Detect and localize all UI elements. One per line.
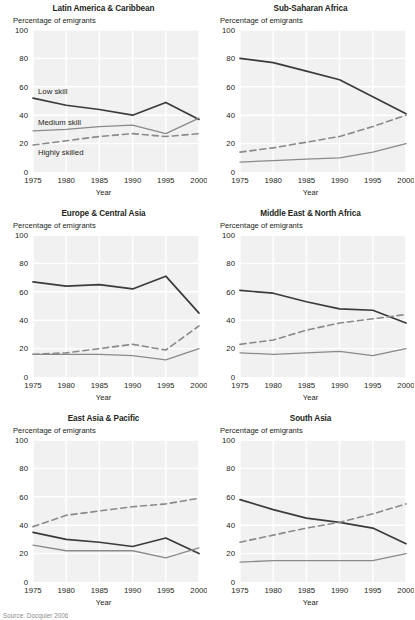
x-axis-label: Year xyxy=(207,188,414,197)
x-tick-label: 1985 xyxy=(91,381,109,390)
x-tick-label: 1995 xyxy=(364,381,382,390)
y-tick-label: 100 xyxy=(15,26,29,35)
panel-middle-east-north-africa: Middle East & North Africa Percentage of… xyxy=(207,205,414,410)
plot-area: 020406080100197519801985199019952000 xyxy=(207,410,414,615)
y-tick-label: 60 xyxy=(226,83,235,92)
y-tick-label: 40 xyxy=(19,111,28,120)
y-tick-label: 80 xyxy=(19,259,28,268)
x-tick-label: 1990 xyxy=(331,176,349,185)
plot-area: 020406080100197519801985199019952000 xyxy=(207,0,414,205)
panel-sub-saharan-africa: Sub-Saharan Africa Percentage of emigran… xyxy=(207,0,414,205)
plot-area: 020406080100197519801985199019952000Low … xyxy=(0,0,207,205)
x-tick-label: 1975 xyxy=(231,381,249,390)
x-tick-label: 1990 xyxy=(124,176,142,185)
x-axis-label: Year xyxy=(207,598,414,607)
plot-background xyxy=(33,440,199,582)
y-tick-label: 20 xyxy=(226,549,235,558)
plot-background xyxy=(33,235,199,377)
y-tick-label: 100 xyxy=(15,436,29,445)
y-tick-label: 80 xyxy=(19,54,28,63)
series-annotation: Highly skilled xyxy=(38,148,84,157)
y-tick-label: 100 xyxy=(222,231,236,240)
y-tick-label: 40 xyxy=(19,521,28,530)
x-tick-label: 1975 xyxy=(231,176,249,185)
series-annotation: Medium skill xyxy=(38,118,81,127)
x-tick-label: 1975 xyxy=(24,586,42,595)
x-tick-label: 1975 xyxy=(231,586,249,595)
y-tick-label: 60 xyxy=(226,288,235,297)
x-tick-label: 1995 xyxy=(157,176,175,185)
x-tick-label: 1985 xyxy=(91,586,109,595)
x-tick-label: 1990 xyxy=(331,586,349,595)
x-tick-label: 1995 xyxy=(364,586,382,595)
x-tick-label: 2000 xyxy=(397,176,414,185)
x-tick-label: 1985 xyxy=(91,176,109,185)
x-tick-label: 1995 xyxy=(157,381,175,390)
y-tick-label: 80 xyxy=(226,54,235,63)
x-axis-label: Year xyxy=(0,393,207,402)
y-tick-label: 60 xyxy=(19,83,28,92)
x-tick-label: 1980 xyxy=(58,381,76,390)
x-tick-label: 1980 xyxy=(58,176,76,185)
x-tick-label: 1985 xyxy=(298,176,316,185)
series-annotation: Low skill xyxy=(38,87,68,96)
x-tick-label: 1975 xyxy=(24,176,42,185)
y-tick-label: 20 xyxy=(19,139,28,148)
y-tick-label: 100 xyxy=(15,231,29,240)
y-tick-label: 40 xyxy=(226,316,235,325)
x-tick-label: 1995 xyxy=(157,586,175,595)
x-tick-label: 2000 xyxy=(397,381,414,390)
x-tick-label: 1980 xyxy=(265,586,283,595)
x-axis-label: Year xyxy=(0,188,207,197)
x-tick-label: 1980 xyxy=(265,381,283,390)
y-tick-label: 60 xyxy=(19,493,28,502)
y-tick-label: 80 xyxy=(19,464,28,473)
y-tick-label: 20 xyxy=(19,549,28,558)
y-tick-label: 40 xyxy=(19,316,28,325)
plot-area: 020406080100197519801985199019952000 xyxy=(0,410,207,615)
y-tick-label: 60 xyxy=(19,288,28,297)
x-tick-label: 1980 xyxy=(265,176,283,185)
source-note: Source: Docquier 2006 xyxy=(3,612,68,620)
plot-area: 020406080100197519801985199019952000 xyxy=(0,205,207,410)
y-tick-label: 80 xyxy=(226,259,235,268)
x-axis-label: Year xyxy=(0,598,207,607)
y-tick-label: 40 xyxy=(226,521,235,530)
y-tick-label: 20 xyxy=(226,139,235,148)
x-tick-label: 1985 xyxy=(298,381,316,390)
x-tick-label: 1995 xyxy=(364,176,382,185)
y-tick-label: 100 xyxy=(222,436,236,445)
x-tick-label: 2000 xyxy=(190,586,207,595)
panel-latin-america: Latin America & Caribbean Percentage of … xyxy=(0,0,207,205)
y-tick-label: 80 xyxy=(226,464,235,473)
y-tick-label: 40 xyxy=(226,111,235,120)
x-tick-label: 1980 xyxy=(58,586,76,595)
y-tick-label: 100 xyxy=(222,26,236,35)
plot-area: 020406080100197519801985199019952000 xyxy=(207,205,414,410)
panel-east-asia-pacific: East Asia & Pacific Percentage of emigra… xyxy=(0,410,207,615)
x-tick-label: 1985 xyxy=(298,586,316,595)
x-tick-label: 2000 xyxy=(397,586,414,595)
x-axis-label: Year xyxy=(207,393,414,402)
x-tick-label: 2000 xyxy=(190,176,207,185)
x-tick-label: 1990 xyxy=(124,586,142,595)
panel-europe-central-asia: Europe & Central Asia Percentage of emig… xyxy=(0,205,207,410)
y-tick-label: 20 xyxy=(226,344,235,353)
x-tick-label: 1990 xyxy=(124,381,142,390)
panel-south-asia: South Asia Percentage of emigrants 02040… xyxy=(207,410,414,615)
x-tick-label: 1975 xyxy=(24,381,42,390)
x-tick-label: 2000 xyxy=(190,381,207,390)
y-tick-label: 20 xyxy=(19,344,28,353)
x-tick-label: 1990 xyxy=(331,381,349,390)
y-tick-label: 60 xyxy=(226,493,235,502)
